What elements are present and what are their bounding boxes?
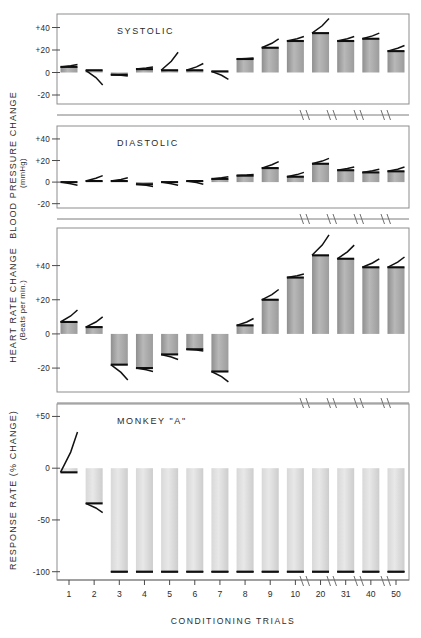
bar-heart_rate-50 bbox=[388, 267, 405, 334]
xtick-label-1: 1 bbox=[67, 589, 72, 599]
bar-heart_rate-5 bbox=[161, 334, 178, 355]
bar-diastolic-31 bbox=[337, 170, 354, 182]
bar-response_rate-50 bbox=[388, 468, 405, 572]
xtick-label-20: 20 bbox=[316, 589, 326, 599]
xtick-label-50: 50 bbox=[391, 589, 401, 599]
bar-response_rate-4 bbox=[136, 468, 153, 572]
xtick-label-8: 8 bbox=[243, 589, 248, 599]
trace-heart_rate-40 bbox=[362, 259, 379, 268]
trace-heart_rate-1 bbox=[61, 310, 78, 322]
ytick-label-diastolic-0: +40 bbox=[36, 135, 51, 144]
ytick-label-heart_rate-2: 0 bbox=[45, 330, 50, 339]
xaxis-break-0-b bbox=[306, 576, 310, 586]
bar-systolic-10 bbox=[287, 41, 304, 73]
xaxis-break-3-a bbox=[381, 576, 385, 586]
ytick-label-systolic-0: +40 bbox=[36, 24, 51, 33]
yaxis-units-blood-pressure: (mmHg) bbox=[18, 158, 27, 188]
ytick-label-diastolic-3: -20 bbox=[38, 200, 51, 209]
trace-response_rate-2 bbox=[86, 503, 103, 512]
xtick-label-7: 7 bbox=[218, 589, 223, 599]
bar-response_rate-10 bbox=[287, 468, 304, 572]
xaxis-break-3-b bbox=[387, 576, 391, 586]
bar-heart_rate-10 bbox=[287, 278, 304, 334]
bar-diastolic-20 bbox=[312, 164, 329, 182]
x-axis-title: CONDITIONING TRIALS bbox=[171, 616, 295, 626]
trace-systolic-9 bbox=[262, 39, 279, 48]
bar-heart_rate-20 bbox=[312, 255, 329, 334]
ytick-label-systolic-1: +20 bbox=[36, 46, 51, 55]
xtick-label-9: 9 bbox=[268, 589, 273, 599]
xtick-label-6: 6 bbox=[192, 589, 197, 599]
figure-container: +40+200-20SYSTOLIC+40+200-20DIASTOLIC+40… bbox=[0, 0, 421, 638]
ytick-label-heart_rate-3: -20 bbox=[38, 364, 51, 373]
trace-systolic-7 bbox=[211, 71, 228, 79]
bar-heart_rate-40 bbox=[362, 267, 379, 334]
ytick-label-response_rate-3: -100 bbox=[33, 568, 50, 577]
ytick-label-response_rate-2: -50 bbox=[38, 516, 51, 525]
trace-systolic-20 bbox=[312, 19, 329, 34]
bar-response_rate-2 bbox=[86, 468, 103, 503]
trace-heart_rate-9 bbox=[262, 290, 279, 300]
ytick-label-heart_rate-0: +40 bbox=[36, 262, 51, 271]
ytick-label-systolic-2: 0 bbox=[45, 69, 50, 78]
xaxis-break-2-a bbox=[354, 576, 358, 586]
bar-heart_rate-8 bbox=[237, 325, 254, 334]
panel-label-diastolic: DIASTOLIC bbox=[117, 138, 179, 148]
bar-heart_rate-3 bbox=[111, 334, 128, 365]
trace-heart_rate-3 bbox=[111, 365, 128, 380]
trace-heart_rate-7 bbox=[211, 372, 228, 382]
xtick-label-3: 3 bbox=[117, 589, 122, 599]
xaxis-break-1-b bbox=[333, 576, 337, 586]
bar-heart_rate-7 bbox=[211, 334, 228, 372]
yaxis-units-heart-rate: (Beats per min.) bbox=[18, 280, 27, 340]
bar-response_rate-3 bbox=[111, 468, 128, 572]
yaxis-title-response-rate: RESPONSE RATE (% CHANGE) bbox=[8, 410, 18, 570]
bar-diastolic-9 bbox=[262, 168, 279, 182]
ytick-label-diastolic-1: +20 bbox=[36, 157, 51, 166]
xtick-label-40: 40 bbox=[366, 589, 376, 599]
xtick-label-31: 31 bbox=[341, 589, 351, 599]
bar-response_rate-20 bbox=[312, 468, 329, 572]
bar-systolic-50 bbox=[388, 51, 405, 72]
multi-panel-chart: +40+200-20SYSTOLIC+40+200-20DIASTOLIC+40… bbox=[0, 0, 421, 638]
trace-systolic-5 bbox=[161, 52, 178, 70]
bar-heart_rate-9 bbox=[262, 300, 279, 334]
trace-heart_rate-50 bbox=[388, 257, 405, 267]
bar-response_rate-8 bbox=[237, 468, 254, 572]
panel-frame-systolic bbox=[57, 14, 409, 104]
ytick-label-diastolic-2: 0 bbox=[45, 178, 50, 187]
trace-heart_rate-2 bbox=[86, 317, 103, 327]
ytick-label-heart_rate-1: +20 bbox=[36, 296, 51, 305]
trace-response_rate-1 bbox=[61, 432, 78, 472]
yaxis-title-blood-pressure: BLOOD PRESSURE CHANGE bbox=[8, 91, 18, 239]
panel-label-systolic: SYSTOLIC bbox=[117, 26, 174, 36]
xtick-label-2: 2 bbox=[92, 589, 97, 599]
panel-frame-diastolic bbox=[57, 126, 409, 208]
bar-response_rate-7 bbox=[211, 468, 228, 572]
bar-systolic-40 bbox=[362, 39, 379, 73]
bar-systolic-31 bbox=[337, 41, 354, 73]
trace-heart_rate-20 bbox=[312, 235, 329, 256]
trace-diastolic-8 bbox=[237, 175, 254, 176]
bar-systolic-8 bbox=[237, 59, 254, 73]
bar-heart_rate-4 bbox=[136, 334, 153, 368]
bar-heart_rate-1 bbox=[61, 322, 78, 334]
ytick-label-response_rate-0: +50 bbox=[36, 412, 51, 421]
ytick-label-systolic-3: -20 bbox=[38, 91, 51, 100]
bar-heart_rate-6 bbox=[186, 334, 203, 349]
xaxis-break-1-a bbox=[327, 576, 331, 586]
yaxis-title-heart-rate: HEART RATE CHANGE bbox=[8, 247, 18, 363]
xtick-label-5: 5 bbox=[167, 589, 172, 599]
panel-frame-heart_rate bbox=[57, 228, 409, 392]
xaxis-break-0-a bbox=[300, 576, 304, 586]
bar-diastolic-40 bbox=[362, 172, 379, 182]
panel-label-response_rate: MONKEY "A" bbox=[117, 416, 187, 426]
xtick-label-4: 4 bbox=[142, 589, 147, 599]
bar-response_rate-31 bbox=[337, 468, 354, 572]
bar-heart_rate-31 bbox=[337, 259, 354, 334]
bar-response_rate-40 bbox=[362, 468, 379, 572]
bar-diastolic-50 bbox=[388, 171, 405, 182]
bar-systolic-9 bbox=[262, 48, 279, 73]
bar-response_rate-6 bbox=[186, 468, 203, 572]
bar-systolic-20 bbox=[312, 33, 329, 72]
